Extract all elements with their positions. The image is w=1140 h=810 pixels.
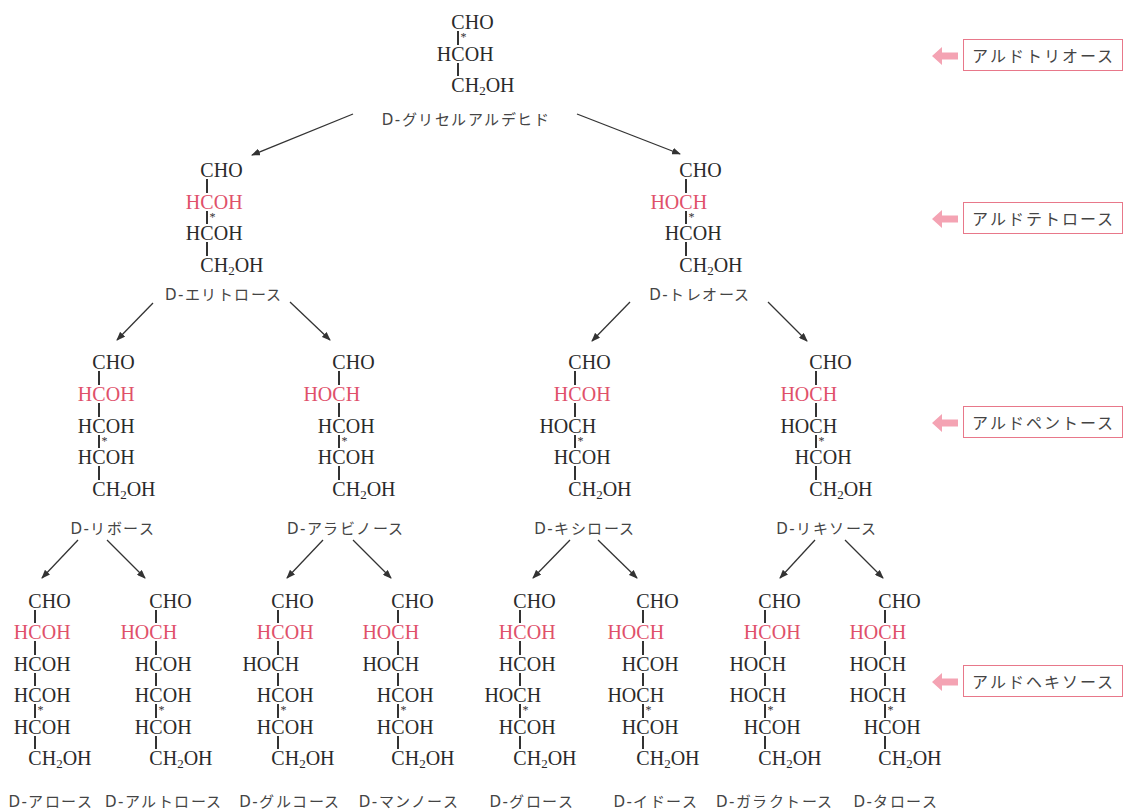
formula-carbon: C bbox=[513, 653, 526, 675]
formula-left-group: H bbox=[318, 446, 332, 468]
formula-carbon: C bbox=[92, 383, 105, 405]
level-label: アルドトリオース bbox=[972, 43, 1115, 67]
formula-left-group: H bbox=[14, 684, 28, 706]
formula-right-group: H2OH bbox=[42, 747, 92, 769]
formula-carbon: C bbox=[636, 590, 649, 612]
chiral-asterisk: * bbox=[281, 704, 287, 716]
formula-carbon: C bbox=[636, 716, 649, 738]
formula-right-group: OH bbox=[346, 446, 375, 468]
formula-right-group: H2OH bbox=[285, 747, 335, 769]
formula-left-group: H bbox=[14, 653, 28, 675]
formula-right-group: OH bbox=[527, 653, 556, 675]
formula-carbon: C bbox=[391, 621, 404, 643]
formula-left-group: HO bbox=[362, 621, 391, 643]
formula-carbon: C bbox=[758, 621, 771, 643]
formula-left-group: HO bbox=[607, 684, 636, 706]
chiral-asterisk: * bbox=[578, 435, 584, 447]
formula-left-group: HO bbox=[780, 415, 809, 437]
formula-left-group: H bbox=[744, 621, 758, 643]
formula-left-group: H bbox=[554, 446, 568, 468]
formula-right-group: HO bbox=[693, 159, 722, 181]
formula-right-group: H2OH bbox=[214, 254, 264, 276]
formula-left-group: HO bbox=[539, 415, 568, 437]
formula-carbon: C bbox=[271, 653, 284, 675]
sugar-name-xylose: D-キシロース bbox=[534, 517, 635, 538]
left-arrow-icon bbox=[932, 210, 958, 228]
level-label-box: アルドテトロース bbox=[963, 202, 1123, 234]
formula-right-group: H bbox=[346, 383, 360, 405]
sugar-name-erythrose: D-エリトロース bbox=[165, 283, 283, 304]
level-label-box: アルドトリオース bbox=[963, 39, 1123, 71]
formula-right-group: OH bbox=[405, 716, 434, 738]
formula-right-group: HO bbox=[650, 590, 679, 612]
formula-carbon: C bbox=[451, 43, 464, 65]
formula-carbon: C bbox=[391, 590, 404, 612]
formula-right-group: H2OH bbox=[650, 747, 700, 769]
arrow-xylose-to-idose bbox=[598, 540, 637, 578]
formula-left-group: H bbox=[257, 684, 271, 706]
formula-carbon: C bbox=[568, 383, 581, 405]
chiral-asterisk: * bbox=[461, 31, 467, 43]
arrow-lyxose-to-galactose bbox=[780, 540, 815, 578]
formula-right-group: HO bbox=[405, 590, 434, 612]
formula-left-group: HO bbox=[849, 621, 878, 643]
sugar-name-altrose: D-アルトロース bbox=[105, 790, 223, 810]
formula-right-group: OH bbox=[42, 621, 71, 643]
formula-right-group: OH bbox=[405, 684, 434, 706]
arrow-xylose-to-gulose bbox=[533, 540, 570, 578]
formula-right-group: HO bbox=[214, 159, 243, 181]
formula-right-group: H2OH bbox=[346, 478, 396, 500]
formula-left-group: H bbox=[318, 415, 332, 437]
formula-carbon: C bbox=[878, 590, 891, 612]
formula-carbon: C bbox=[636, 653, 649, 675]
formula-carbon: C bbox=[809, 383, 822, 405]
formula-right-group: OH bbox=[214, 191, 243, 213]
chiral-asterisk: * bbox=[646, 704, 652, 716]
left-arrow-icon bbox=[932, 414, 958, 432]
formula-right-group: H2OH bbox=[106, 478, 156, 500]
formula-right-group: OH bbox=[163, 684, 192, 706]
formula-right-group: H bbox=[892, 684, 906, 706]
formula-right-group: OH bbox=[582, 446, 611, 468]
formula-right-group: H bbox=[650, 684, 664, 706]
formula-left-group: H bbox=[499, 621, 513, 643]
formula-right-group: HO bbox=[823, 351, 852, 373]
formula-carbon: C bbox=[271, 590, 284, 612]
formula-right-group: HO bbox=[285, 590, 314, 612]
formula-left-group: HO bbox=[242, 653, 271, 675]
formula-right-group: OH bbox=[693, 222, 722, 244]
level-label: アルドペントース bbox=[972, 410, 1115, 434]
sugar-name-galactose: D-ガラクトース bbox=[716, 790, 834, 810]
formula-left-group: H bbox=[78, 383, 92, 405]
formula-left-group: H bbox=[257, 716, 271, 738]
formula-right-group: H2OH bbox=[405, 747, 455, 769]
formula-left-group: HO bbox=[303, 383, 332, 405]
formula-right-group: OH bbox=[650, 653, 679, 675]
formula-carbon: C bbox=[758, 747, 771, 769]
formula-right-group: H bbox=[285, 653, 299, 675]
formula-right-group: OH bbox=[527, 716, 556, 738]
formula-carbon: C bbox=[28, 653, 41, 675]
formula-left-group: HO bbox=[120, 621, 149, 643]
formula-left-group: H bbox=[554, 383, 568, 405]
formula-carbon: C bbox=[200, 254, 213, 276]
formula-right-group: OH bbox=[163, 716, 192, 738]
formula-right-group: H2OH bbox=[823, 478, 873, 500]
sugar-name-arabinose: D-アラビノース bbox=[287, 517, 405, 538]
formula-right-group: OH bbox=[772, 621, 801, 643]
formula-carbon: C bbox=[271, 621, 284, 643]
formula-right-group: H bbox=[772, 684, 786, 706]
formula-right-group: HO bbox=[163, 590, 192, 612]
left-arrow-icon bbox=[932, 47, 958, 65]
formula-right-group: HO bbox=[772, 590, 801, 612]
chiral-asterisk: * bbox=[888, 704, 894, 716]
formula-carbon: C bbox=[28, 716, 41, 738]
formula-left-group: HO bbox=[780, 383, 809, 405]
formula-carbon: C bbox=[878, 653, 891, 675]
formula-right-group: H bbox=[582, 415, 596, 437]
formula-carbon: C bbox=[513, 747, 526, 769]
chiral-asterisk: * bbox=[819, 435, 825, 447]
left-arrow-icon bbox=[932, 673, 958, 691]
formula-carbon: C bbox=[271, 716, 284, 738]
formula-left-group: H bbox=[135, 716, 149, 738]
